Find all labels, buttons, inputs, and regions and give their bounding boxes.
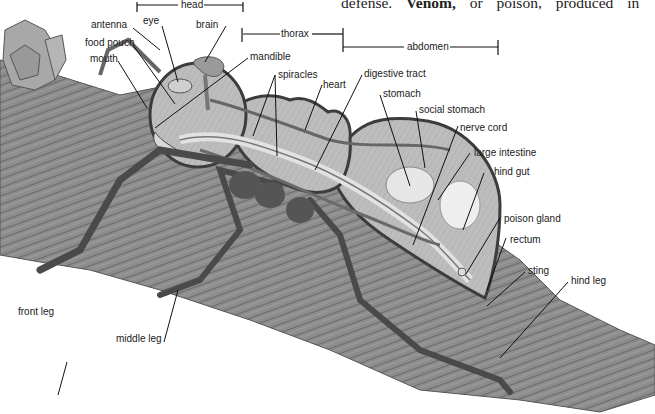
region-label-thorax: thorax	[281, 29, 309, 39]
label-heart: heart	[323, 80, 346, 90]
region-label-abdomen: abdomen	[407, 42, 449, 52]
label-nerve-cord: nerve cord	[460, 123, 507, 133]
label-eye: eye	[143, 16, 159, 26]
label-poison-gland: poison gland	[504, 214, 561, 224]
label-social-stomach: social stomach	[419, 105, 485, 115]
region-label-head: head	[181, 0, 203, 10]
label-large-intestine: large intestine	[474, 148, 536, 158]
label-rectum: rectum	[510, 235, 541, 245]
label-spiracles: spiracles	[278, 70, 317, 80]
label-sting: sting	[528, 266, 549, 276]
label-hind-gut: hind gut	[494, 167, 530, 177]
label-middle-leg: middle leg	[116, 334, 162, 344]
label-brain: brain	[196, 20, 218, 30]
label-hind-leg: hind leg	[571, 276, 606, 286]
label-mandible: mandible	[250, 52, 291, 62]
label-front-leg: front leg	[18, 307, 54, 317]
label-food-pouch: food pouch	[85, 38, 135, 48]
label-antenna: antenna	[91, 20, 127, 30]
label-mouth: mouth	[90, 54, 118, 64]
label-stomach: stomach	[383, 89, 421, 99]
label-digestive-tract: digestive tract	[364, 69, 426, 79]
